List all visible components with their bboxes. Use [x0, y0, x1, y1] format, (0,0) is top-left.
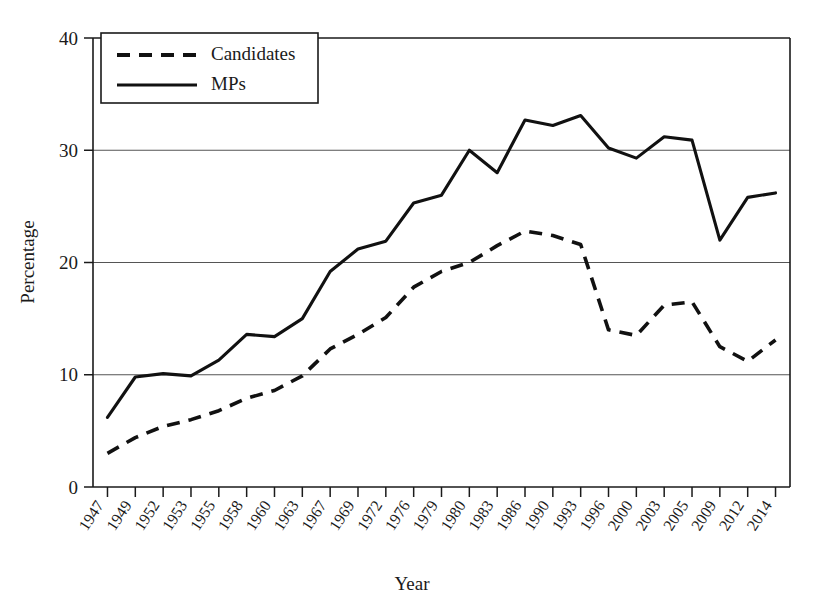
x-tick-label: 1986 [493, 497, 525, 533]
x-tick-label: 1979 [409, 497, 441, 533]
legend-label-mps: MPs [211, 73, 246, 94]
x-axis-ticks: 1947194919521953195519581960196319671969… [75, 487, 775, 533]
chart-container: 010203040 194719491952195319551958196019… [0, 0, 825, 608]
gridlines [93, 150, 790, 375]
y-tick-label: 10 [59, 364, 78, 385]
line-chart: 010203040 194719491952195319551958196019… [0, 0, 825, 608]
x-tick-label: 1980 [437, 497, 469, 533]
x-tick-label: 1953 [159, 497, 191, 533]
x-tick-label: 1976 [381, 497, 413, 533]
legend-label-candidates: Candidates [211, 43, 295, 64]
x-tick-label: 1983 [465, 497, 497, 533]
y-axis-ticks: 010203040 [59, 28, 93, 498]
x-tick-label: 2012 [716, 497, 748, 533]
series-line-candidates [107, 231, 775, 453]
x-tick-label: 1963 [270, 497, 302, 533]
x-tick-label: 2005 [660, 497, 692, 533]
x-tick-label: 2003 [632, 497, 664, 533]
x-tick-label: 2014 [743, 497, 775, 533]
x-tick-label: 2000 [604, 497, 636, 533]
y-tick-label: 0 [69, 477, 79, 498]
x-tick-label: 1990 [521, 497, 553, 533]
x-tick-label: 1958 [214, 497, 246, 533]
x-tick-label: 1996 [576, 497, 608, 533]
x-tick-label: 1969 [326, 497, 358, 533]
x-tick-label: 1955 [187, 497, 219, 533]
y-axis-title: Percentage [17, 220, 38, 303]
y-tick-label: 20 [59, 252, 78, 273]
x-tick-label: 1967 [298, 497, 330, 533]
legend: Candidates MPs [101, 33, 318, 103]
x-tick-label: 1952 [131, 497, 163, 533]
series-line-mps [107, 115, 775, 417]
x-tick-label: 1949 [103, 497, 135, 533]
x-tick-label: 1947 [75, 497, 107, 533]
x-tick-label: 1960 [242, 497, 274, 533]
x-tick-label: 1972 [354, 497, 386, 533]
x-axis-title: Year [394, 573, 430, 594]
y-tick-label: 30 [59, 140, 78, 161]
x-tick-label: 1993 [549, 497, 581, 533]
x-tick-label: 2009 [688, 497, 720, 533]
y-tick-label: 40 [59, 28, 78, 49]
